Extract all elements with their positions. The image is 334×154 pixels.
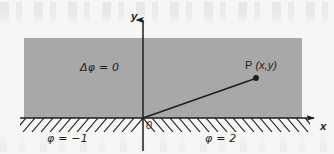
shaded-region [24,38,302,118]
boundary-condition-left: φ = −1 [47,133,88,144]
point-p-label: P (x,y) [245,60,277,71]
boundary-condition-right: φ = 2 [205,133,236,144]
hatching-right [143,118,317,132]
point-p-coords: (x,y) [255,59,276,71]
origin-label: 0 [146,120,152,131]
x-axis-label: x [320,121,326,133]
laplace-equation-label: Δφ = 0 [80,62,119,73]
y-axis-label: y [131,11,137,23]
point-p-marker [253,75,259,81]
hatching-left [14,118,143,132]
diagram-svg [0,0,334,154]
figure-canvas: Δφ = 0 y x 0 φ = −1 φ = 2 P (x,y) [0,0,334,154]
